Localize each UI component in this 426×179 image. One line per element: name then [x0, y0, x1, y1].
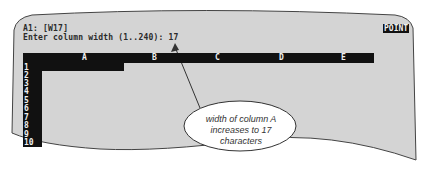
- column-header-a[interactable]: A: [82, 53, 87, 63]
- column-header-b[interactable]: B: [152, 53, 157, 63]
- row-header-4[interactable]: 4: [24, 88, 29, 96]
- row-header-10[interactable]: 10: [24, 139, 34, 147]
- column-header-c[interactable]: C: [215, 53, 220, 63]
- row-header-6[interactable]: 6: [24, 105, 29, 113]
- cell-pointer-a1[interactable]: [42, 63, 124, 71]
- column-header-bar: [23, 53, 374, 63]
- callout-text: width of column A increases to 17 charac…: [192, 114, 290, 147]
- cell-address-status: A1: [W17]: [23, 24, 68, 33]
- column-width-prompt[interactable]: Enter column width (1..240): 17: [23, 33, 179, 42]
- callout-line-3: characters: [192, 136, 290, 147]
- mode-indicator: POINT: [383, 24, 409, 33]
- column-header-e[interactable]: E: [341, 53, 346, 63]
- callout-line-1: width of column A: [192, 114, 290, 125]
- callout-line-2: increases to 17: [192, 125, 290, 136]
- row-header-8[interactable]: 8: [24, 122, 29, 130]
- column-header-d[interactable]: D: [279, 53, 284, 63]
- spreadsheet-screen: A1: [W17] Enter column width (1..240): 1…: [0, 0, 426, 179]
